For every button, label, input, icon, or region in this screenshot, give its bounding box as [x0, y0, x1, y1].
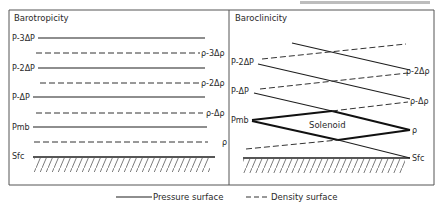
- barotropicity-panel: Barotropicity P-3ΔP P-2ΔP P-ΔP Pmb Sfc ρ…: [12, 13, 227, 172]
- label-rho-3drho: ρ-3Δρ: [201, 49, 225, 58]
- panel-title-barotropicity: Barotropicity: [14, 13, 69, 23]
- label-pmb-left: Pmb: [12, 123, 30, 132]
- label-rho-drho-right: ρ-Δρ: [410, 97, 429, 106]
- solenoid-upper-left-edge: [252, 111, 332, 120]
- label-pmb-right: Pmb: [231, 116, 249, 125]
- density-surface-right-2: [260, 73, 408, 89]
- label-p-dp-right: P-ΔP: [231, 87, 249, 96]
- pressure-surface-right-3a: [254, 93, 332, 111]
- label-p-2dp: P-2ΔP: [12, 64, 35, 73]
- label-rho-right: ρ: [412, 126, 417, 135]
- solenoid-lower-right-edge: [338, 130, 410, 140]
- label-rho-drho: ρ-Δρ: [206, 109, 225, 118]
- label-rho-2drho-right: ρ-2Δρ: [406, 67, 430, 76]
- ground-hatching-right: [243, 159, 405, 173]
- pressure-surface-right-4: [338, 140, 410, 158]
- label-p-3dp: P-3ΔP: [12, 34, 35, 43]
- label-rho-2drho: ρ-2Δρ: [201, 79, 225, 88]
- cropped-text-fragment: [300, 1, 430, 4]
- ground-hatching-left: [34, 158, 210, 172]
- label-p-2dp-right: P-2ΔP: [231, 58, 254, 67]
- panel-title-baroclinicity: Baroclinicity: [235, 13, 287, 23]
- label-sfc-right: Sfc: [412, 154, 424, 163]
- solenoid-label: Solenoid: [309, 120, 346, 130]
- legend-density-label: Density surface: [271, 192, 337, 202]
- density-surface-right-top: [262, 44, 406, 59]
- label-p-dp: P-ΔP: [12, 93, 30, 102]
- label-rho-left: ρ: [222, 138, 227, 147]
- legend: Pressure surface Density surface: [116, 192, 337, 202]
- label-sfc-left: Sfc: [12, 152, 24, 161]
- density-surface-right-4: [246, 140, 338, 149]
- legend-pressure-label: Pressure surface: [153, 192, 223, 202]
- density-surface-right-3: [332, 102, 408, 111]
- barotropic-baroclinic-diagram: Barotropicity P-3ΔP P-2ΔP P-ΔP Pmb Sfc ρ…: [0, 0, 440, 208]
- baroclinicity-panel: Baroclinicity P-2ΔP ρ-2Δρ P-ΔP ρ-Δρ Pmb …: [231, 13, 430, 173]
- pressure-surface-right-top: [292, 43, 410, 70]
